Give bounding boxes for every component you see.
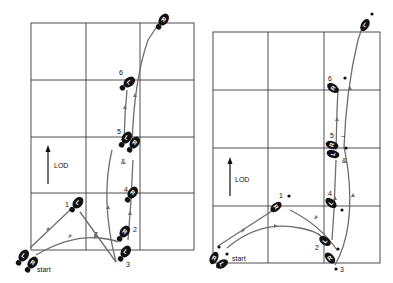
right-step-6-dot xyxy=(343,76,346,79)
right-footprint-end-L: L xyxy=(358,17,371,32)
right-step-5-label: 5 xyxy=(330,132,334,139)
right-end-dot xyxy=(370,12,373,15)
right-lod-label: LOD xyxy=(235,176,249,183)
left-figure: LOD L R start xyxy=(13,12,194,275)
left-step-3-label: 3 xyxy=(126,261,130,268)
right-step-1-label: 1 xyxy=(279,192,283,199)
right-step-5-marker: ~ xyxy=(341,133,345,140)
right-step-3-label: 3 xyxy=(340,266,344,273)
left-footprint-1-L: L xyxy=(67,195,86,215)
left-floor-grid xyxy=(31,23,194,250)
right-start-heel-dot-2 xyxy=(225,252,228,255)
right-step-2-label: 2 xyxy=(315,244,319,251)
left-step-1-label: 1 xyxy=(65,201,69,208)
left-step-2-label: 2 xyxy=(133,226,137,233)
right-step-3-dot xyxy=(334,267,337,270)
dance-step-diagram: LOD L R start xyxy=(0,0,393,283)
right-step-4-dot xyxy=(340,208,343,211)
right-step-and-label: & xyxy=(342,157,347,164)
left-lod-label: LOD xyxy=(54,162,68,169)
left-footprint-3-L: L xyxy=(115,244,133,264)
right-and-dot xyxy=(344,146,347,149)
left-step-5-label: 5 xyxy=(117,128,121,135)
left-step-and-label: & xyxy=(121,158,126,165)
right-figure: LOD R L start xyxy=(208,12,380,273)
right-footprint-4-L: L xyxy=(323,196,338,210)
left-step-paths xyxy=(30,22,160,262)
left-step-6-label: 6 xyxy=(119,69,123,76)
right-step-6-label: 6 xyxy=(328,75,332,82)
right-step-1-dot xyxy=(287,194,290,197)
right-floor-grid xyxy=(213,32,380,263)
right-footprint-5-R: R xyxy=(325,139,340,150)
right-step-2-dot xyxy=(336,247,339,250)
right-step-4-label: 4 xyxy=(328,190,332,197)
right-footprint-and-L: L xyxy=(326,148,341,159)
right-step-paths xyxy=(218,22,364,265)
left-step-4-label: 4 xyxy=(124,186,128,193)
left-start-label: start xyxy=(37,266,51,273)
right-start-heel-dot xyxy=(217,245,220,248)
right-start-label: start xyxy=(232,255,246,262)
left-lod-arrow-icon xyxy=(46,145,51,184)
right-lod-arrow-icon xyxy=(228,157,233,196)
